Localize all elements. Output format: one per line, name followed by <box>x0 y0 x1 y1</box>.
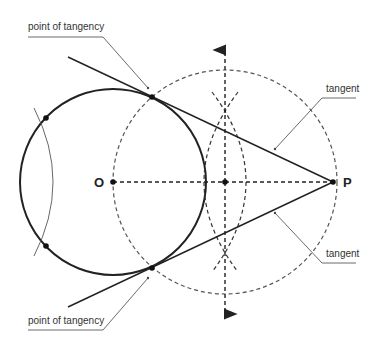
leader-tangent-top <box>275 98 356 149</box>
label-tangent-top: tangent <box>326 83 360 94</box>
tangent-construction-diagram: point of tangency point of tangency tang… <box>0 0 377 346</box>
point-tangency-top <box>149 94 155 100</box>
point-tangency-bottom <box>149 265 155 271</box>
label-point-of-tangency-bottom: point of tangency <box>28 315 104 326</box>
point-arc-intersection-bottom <box>43 243 49 249</box>
leader-dot-top <box>147 87 149 89</box>
leader-dot-bottom <box>147 277 149 279</box>
label-point-of-tangency-top: point of tangency <box>28 21 104 32</box>
label-p: P <box>343 175 352 190</box>
point-arc-intersection-top <box>43 115 49 121</box>
leader-dot-tangent-top <box>274 148 276 150</box>
tangent-line-top <box>68 57 333 182</box>
label-o: O <box>94 175 104 190</box>
point-p <box>330 179 336 185</box>
tangent-line-bottom <box>68 182 333 307</box>
label-tangent-bottom: tangent <box>326 248 360 259</box>
point-midpoint <box>222 179 228 185</box>
leader-tangency-top <box>28 37 148 88</box>
leader-dot-tangent-bottom <box>274 212 276 214</box>
point-o <box>110 179 116 185</box>
